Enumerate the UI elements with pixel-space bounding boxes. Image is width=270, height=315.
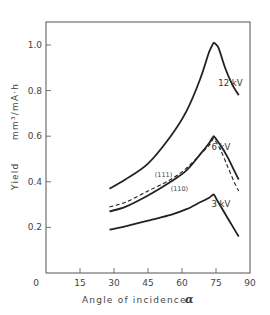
y-tick-label: 0.2 (28, 222, 42, 232)
curve-annotation: (110) (171, 185, 188, 193)
x-tick-label: 45 (142, 278, 153, 288)
y-tick-label: 0.6 (28, 131, 43, 141)
curve-annotation: 12 kV (218, 78, 242, 88)
chart-svg: 0.20.40.60.81.0 0153045607590 12 kV6 kV3… (0, 0, 270, 315)
curve-annotation: 3 kV (211, 199, 230, 209)
x-tick-label: 30 (108, 278, 120, 288)
curve-12-kv (110, 43, 239, 189)
curve-annotation: 6 kV (211, 142, 230, 152)
y-tick-label: 0.8 (28, 86, 43, 96)
annotations: 12 kV6 kV3 kV(111)(110) (155, 78, 243, 209)
y-tick-label: 0.4 (28, 177, 43, 187)
x-axis-ticks: 0153045607590 (33, 268, 256, 288)
x-axis-label: Angle of incidence (82, 295, 187, 305)
x-tick-label: 90 (244, 278, 256, 288)
y-axis-label: Yield (10, 163, 20, 191)
y-axis-unit: mm³/mA·h (10, 83, 20, 140)
x-axis-symbol: α (185, 293, 194, 306)
x-tick-label: 60 (176, 278, 188, 288)
x-tick-label: 0 (33, 278, 39, 288)
y-tick-label: 1.0 (28, 40, 43, 50)
x-tick-label: 15 (74, 278, 85, 288)
y-axis-ticks: 0.20.40.60.81.0 (28, 40, 51, 232)
curve-annotation: (111) (155, 171, 172, 179)
x-tick-label: 75 (210, 278, 221, 288)
